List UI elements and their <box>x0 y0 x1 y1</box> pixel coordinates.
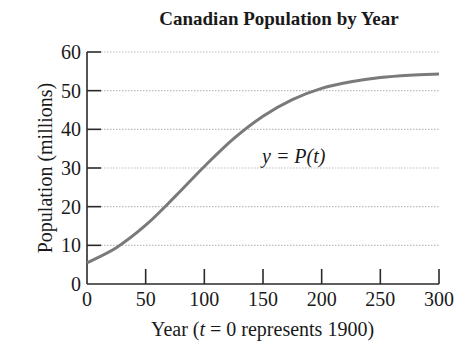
x-tick-label: 50 <box>136 288 156 310</box>
x-tick-label: 200 <box>307 288 337 310</box>
y-tick-label: 60 <box>61 41 81 63</box>
x-tick-label: 150 <box>248 288 278 310</box>
y-tick-label: 20 <box>61 196 81 218</box>
y-tick-label: 40 <box>61 118 81 140</box>
y-tick-label: 10 <box>61 234 81 256</box>
y-tick-label: 50 <box>61 80 81 102</box>
x-tick-label: 100 <box>189 288 219 310</box>
x-tick-label: 0 <box>82 288 92 310</box>
gridlines <box>101 52 439 245</box>
y-tick-label: 0 <box>71 273 81 295</box>
y-tick-label: 30 <box>61 157 81 179</box>
ticks: 0102030405060050100150200250300 <box>61 41 454 310</box>
plot-area: 0102030405060050100150200250300 <box>0 0 468 359</box>
x-tick-label: 300 <box>424 288 454 310</box>
x-tick-label: 250 <box>365 288 395 310</box>
